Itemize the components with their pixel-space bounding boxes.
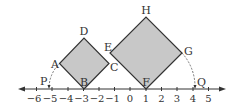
- label-A: A: [50, 58, 60, 71]
- label-G: G: [184, 45, 193, 58]
- right-arrow-icon: [219, 87, 226, 92]
- label-C: C: [110, 61, 118, 74]
- tick-label: 5: [205, 93, 211, 104]
- tick-label: 0: [127, 93, 133, 104]
- number-line-diagram: −6 −5 −4 −3 −2 −1 0 1 2 3 4 5 D A C B H …: [0, 0, 233, 111]
- left-arrow-icon: [18, 87, 25, 92]
- tick-label: −3: [74, 93, 89, 104]
- tick-label: 4: [190, 93, 196, 104]
- label-E: E: [104, 41, 112, 54]
- label-P: P: [40, 75, 48, 88]
- tick-label: −5: [43, 93, 58, 104]
- tick-label: −1: [105, 93, 120, 104]
- label-Q: Q: [197, 76, 206, 89]
- tick-label: 3: [174, 93, 180, 104]
- label-B: B: [80, 76, 88, 89]
- label-F: F: [142, 76, 150, 89]
- arrow-P-icon: [48, 85, 51, 89]
- tick-label: −6: [27, 93, 42, 104]
- tick-label: 2: [158, 93, 164, 104]
- tick-label: 1: [143, 93, 149, 104]
- label-D: D: [80, 25, 89, 38]
- label-H: H: [141, 4, 151, 17]
- tick-label: −4: [59, 93, 74, 104]
- number-line: −6 −5 −4 −3 −2 −1 0 1 2 3 4 5: [18, 87, 226, 105]
- arc-GQ: [182, 53, 195, 87]
- tick-label: −2: [90, 93, 105, 104]
